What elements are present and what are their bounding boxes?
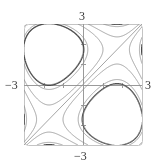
y-axis-max-label: 3 <box>79 10 85 22</box>
contour-plot <box>0 0 156 164</box>
y-axis-min-label: −3 <box>74 150 87 162</box>
x-axis-max-label: 3 <box>145 79 151 91</box>
x-axis-min-label: −3 <box>5 79 18 91</box>
